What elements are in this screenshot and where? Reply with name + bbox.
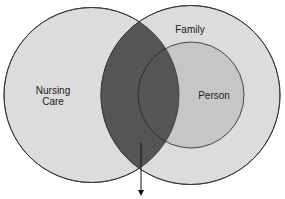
nursing-care-label-line2: Care [42, 96, 64, 107]
nursing-care-label-line1: Nursing [36, 85, 70, 96]
person-label: Person [198, 90, 230, 101]
arrow-head-icon [138, 190, 144, 196]
venn-diagram: Nursing Care Family Person [0, 0, 285, 199]
family-label: Family [175, 24, 204, 35]
